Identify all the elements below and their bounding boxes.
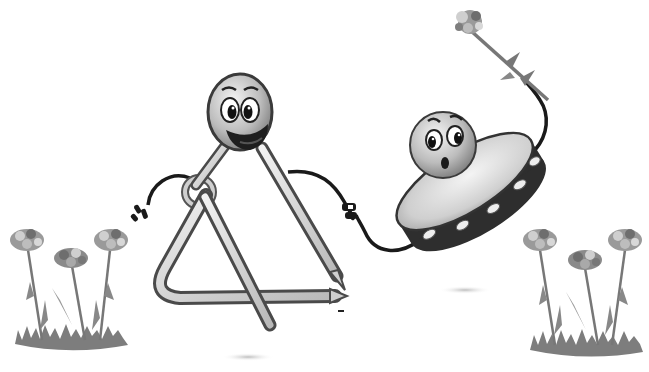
carnation-bloom-icon (568, 250, 602, 270)
carnation-bloom-icon (94, 229, 128, 251)
carnation-bloom-icon (54, 248, 88, 268)
carnation-bloom-icon (608, 229, 642, 251)
triangle-character (130, 74, 357, 325)
dash-mark (338, 310, 344, 312)
triangle-right-hand (342, 203, 357, 219)
carnation-bloom-icon (455, 10, 483, 34)
held-carnation (455, 10, 548, 100)
illustration-canvas (0, 0, 649, 372)
grass-icon (530, 329, 643, 357)
carnation-bloom-icon (10, 229, 44, 251)
flowers-left (10, 229, 128, 350)
flowers-right (523, 229, 643, 357)
surprised-mouth-icon (441, 157, 449, 169)
carnation-bloom-icon (523, 229, 557, 251)
triangle-left-hand (130, 204, 149, 222)
triangle-face (208, 74, 272, 150)
illustration-scene (0, 0, 649, 372)
tambourine-shadow (439, 286, 491, 294)
clipped-caption-text (0, 0, 649, 2)
grass-icon (15, 324, 128, 350)
tambourine-character (356, 10, 560, 269)
triangle-shadow (222, 353, 274, 361)
tambourine-face (410, 112, 476, 178)
